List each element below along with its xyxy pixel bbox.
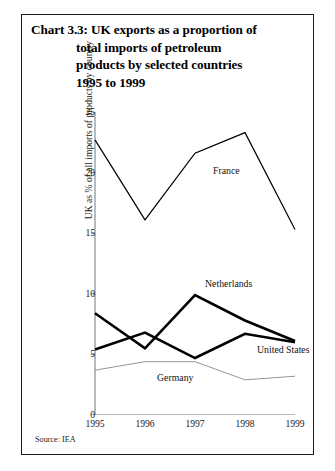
plot-area: 0510152025 19951996199719981999 France N… — [74, 112, 296, 415]
x-axis-tick-1997: 1997 — [173, 418, 217, 430]
chart-title-line-3: products by selected countries — [31, 56, 309, 74]
source-note: Source: IEA — [35, 435, 76, 444]
series-label-netherlands: Netherlands — [205, 278, 252, 289]
y-axis-tick-10: 10 — [69, 289, 95, 299]
y-axis-tick-15: 15 — [69, 228, 95, 238]
chart-canvas — [74, 112, 296, 415]
y-axis-tick-labels: 0510152025 — [65, 112, 95, 415]
series-label-france: France — [213, 165, 240, 176]
chart-title-line-4: 1995 to 1999 — [31, 74, 309, 92]
chart-frame: Chart 3.3: UK exports as a proportion of… — [21, 14, 314, 455]
y-axis-tick-20: 20 — [69, 168, 95, 178]
y-axis-tick-25: 25 — [69, 107, 95, 117]
chart-title: Chart 3.3: UK exports as a proportion of… — [31, 21, 309, 91]
y-axis-tick-5: 5 — [69, 349, 95, 359]
x-axis-tick-1999: 1999 — [273, 418, 317, 430]
chart-title-line-1: Chart 3.3: UK exports as a proportion of — [31, 21, 309, 39]
x-axis-tick-1995: 1995 — [73, 418, 117, 430]
chart-title-line-2: total imports of petroleum — [31, 39, 309, 57]
x-axis-tick-labels: 19951996199719981999 — [74, 418, 296, 434]
x-axis-tick-1998: 1998 — [223, 418, 267, 430]
series-label-germany: Germany — [157, 372, 193, 383]
x-axis-tick-1996: 1996 — [123, 418, 167, 430]
series-label-united-states: United States — [257, 344, 310, 355]
